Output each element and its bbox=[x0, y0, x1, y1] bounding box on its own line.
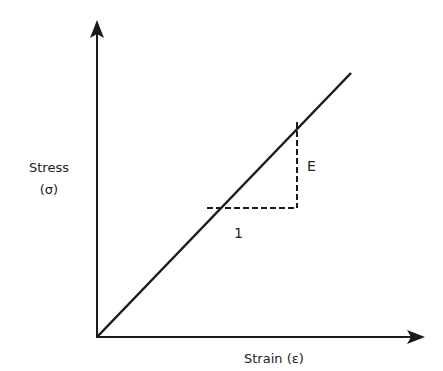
x-axis-label: Strain (ε) bbox=[244, 351, 304, 366]
y-axis-label-line2: (σ) bbox=[24, 179, 74, 201]
slope-rise-label: E bbox=[307, 158, 316, 174]
stress-strain-line bbox=[97, 73, 351, 337]
y-axis-label: Stress (σ) bbox=[24, 157, 74, 201]
y-axis-label-line1: Stress bbox=[24, 157, 74, 179]
slope-run-label: 1 bbox=[234, 225, 243, 241]
